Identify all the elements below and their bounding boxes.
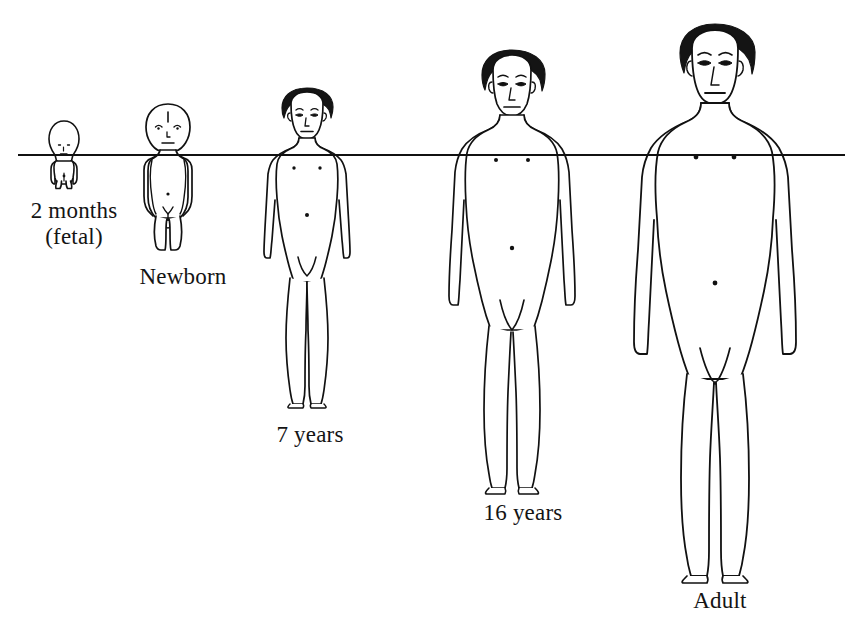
label-newborn-line1: Newborn [140,264,227,289]
label-7-years-line1: 7 years [276,422,343,447]
label-newborn: Newborn [108,264,258,290]
figure-newborn [144,104,192,250]
figure-16-years [449,50,575,494]
growth-proportion-illustration [0,0,852,622]
figure-adult [634,24,796,583]
label-16-years: 16 years [450,500,596,526]
label-7-years: 7 years [240,422,380,448]
label-fetal-line2: (fetal) [8,224,140,250]
figure-7-years [264,88,350,408]
label-16-years-line1: 16 years [484,500,563,525]
label-fetal: 2 months (fetal) [8,198,140,250]
label-fetal-line1: 2 months [31,198,118,223]
label-adult: Adult [650,588,790,614]
label-adult-line1: Adult [693,588,746,613]
